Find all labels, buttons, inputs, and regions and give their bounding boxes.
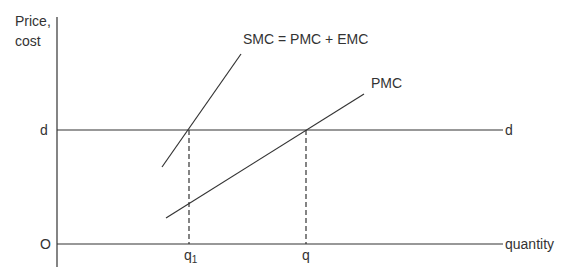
demand-label-right: d [505,122,513,138]
origin-label: O [40,236,51,252]
y-axis-label-line2: cost [15,33,41,49]
smc-label: SMC = PMC + EMC [243,31,368,47]
x-axis-label: quantity [505,236,554,252]
pmc-curve [166,94,364,218]
pmc-label: PMC [371,75,402,91]
q-label: q [302,247,310,263]
externality-diagram: Price, cost d d O quantity SMC = PMC + E… [0,0,581,275]
q1-subscript: 1 [192,254,198,265]
y-axis-label-line1: Price, [15,13,51,29]
q1-label: q1 [184,247,198,265]
demand-label-left: d [40,122,48,138]
smc-curve [162,54,241,167]
